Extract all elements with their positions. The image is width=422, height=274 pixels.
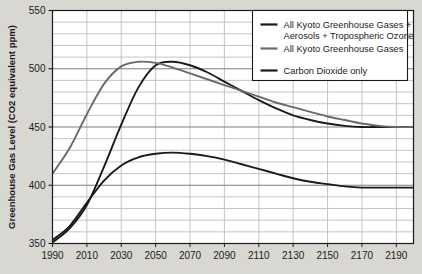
x-tick-label: 2110 (248, 250, 270, 261)
y-tick-label: 500 (29, 63, 46, 74)
x-tick-label: 2190 (385, 250, 408, 261)
x-tick-label: 2010 (76, 250, 99, 261)
x-tick-label: 2170 (351, 250, 374, 261)
x-tick-label: 2070 (179, 250, 202, 261)
x-tick-label: 2090 (213, 250, 236, 261)
y-tick-label: 450 (29, 122, 46, 133)
legend-label-0-line2: Aerosols + Tropospheric Ozone (284, 31, 414, 41)
chart-legend: All Kyoto Greenhouse Gases +Aerosols + T… (253, 11, 414, 81)
greenhouse-gas-projection-chart: 1990201020302050207020902110213021502170… (0, 0, 422, 274)
x-tick-label: 2150 (316, 250, 339, 261)
chart-canvas: 1990201020302050207020902110213021502170… (0, 0, 422, 274)
y-axis-label: Greenhouse Gas Level (CO2 equivalent ppm… (6, 25, 17, 229)
y-tick-label: 400 (29, 180, 46, 191)
x-tick-label: 2030 (110, 250, 133, 261)
y-tick-label: 550 (29, 5, 46, 16)
y-tick-label: 350 (29, 238, 46, 249)
legend-label-0: All Kyoto Greenhouse Gases + (284, 20, 412, 30)
x-tick-label: 1990 (41, 250, 64, 261)
legend-label-2: Carbon Dioxide only (284, 66, 368, 76)
x-tick-label: 2050 (145, 250, 168, 261)
legend-label-1: All Kyoto Greenhouse Gases (284, 44, 404, 54)
y-axis-title: Greenhouse Gas Level (CO2 equivalent ppm… (6, 25, 17, 229)
x-tick-label: 2130 (282, 250, 305, 261)
